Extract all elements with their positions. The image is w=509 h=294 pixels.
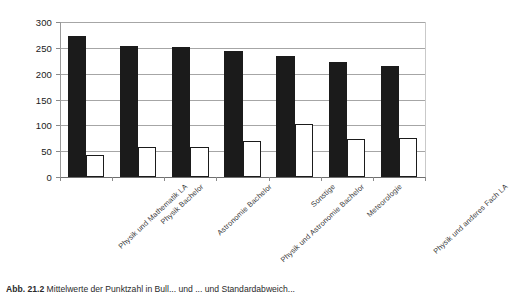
bar-group <box>224 22 261 177</box>
chart-plot: 050100150200250300 <box>0 0 440 200</box>
bar-group <box>276 22 313 177</box>
bar-stddev <box>399 138 417 177</box>
bar-stddev <box>190 147 208 177</box>
bar-stddev <box>295 124 313 177</box>
x-axis-category-label: Sonstige <box>309 182 337 209</box>
y-axis-tick-label: 250 <box>0 42 52 53</box>
bar-mean <box>329 62 347 177</box>
bar-stddev <box>138 147 156 177</box>
y-axis-tick-label: 150 <box>0 94 52 105</box>
caption-number: Abb. 21.2 <box>6 284 44 294</box>
bars-layer <box>60 22 425 177</box>
y-axis-tick-label: 300 <box>0 17 52 28</box>
y-axis-tick-label: 200 <box>0 68 52 79</box>
x-axis-category-label: Physik und anderes Fach LA <box>431 182 509 256</box>
x-axis-line <box>60 177 426 178</box>
bar-mean <box>224 51 242 177</box>
bar-mean <box>276 56 294 177</box>
caption-body: Mittelwerte der Punktzahl in Bull... und… <box>47 284 295 294</box>
bar-mean <box>68 36 86 177</box>
bar-mean <box>381 66 399 177</box>
bar-group <box>329 22 366 177</box>
y-axis-tick-label: 100 <box>0 120 52 131</box>
bar-group <box>172 22 209 177</box>
bar-stddev <box>86 155 104 177</box>
bar-stddev <box>243 141 261 177</box>
y-axis-tick-label: 50 <box>0 146 52 157</box>
bar-group <box>381 22 418 177</box>
bar-group <box>120 22 157 177</box>
bar-mean <box>172 47 190 177</box>
figure-caption: Abb. 21.2 Mittelwerte der Punktzahl in B… <box>6 284 434 294</box>
bar-group <box>68 22 105 177</box>
plot-right-border <box>425 22 426 177</box>
x-axis-category-label: Physik und Mathematik LA <box>117 182 190 251</box>
bar-mean <box>120 46 138 177</box>
x-axis-category-label: Astronomie Bachelor <box>216 182 274 237</box>
x-axis-category-label: Meteorologie <box>365 182 404 219</box>
x-axis-labels: Physik und Mathematik LAPhysik BachelorA… <box>0 180 440 260</box>
bar-stddev <box>347 139 365 177</box>
